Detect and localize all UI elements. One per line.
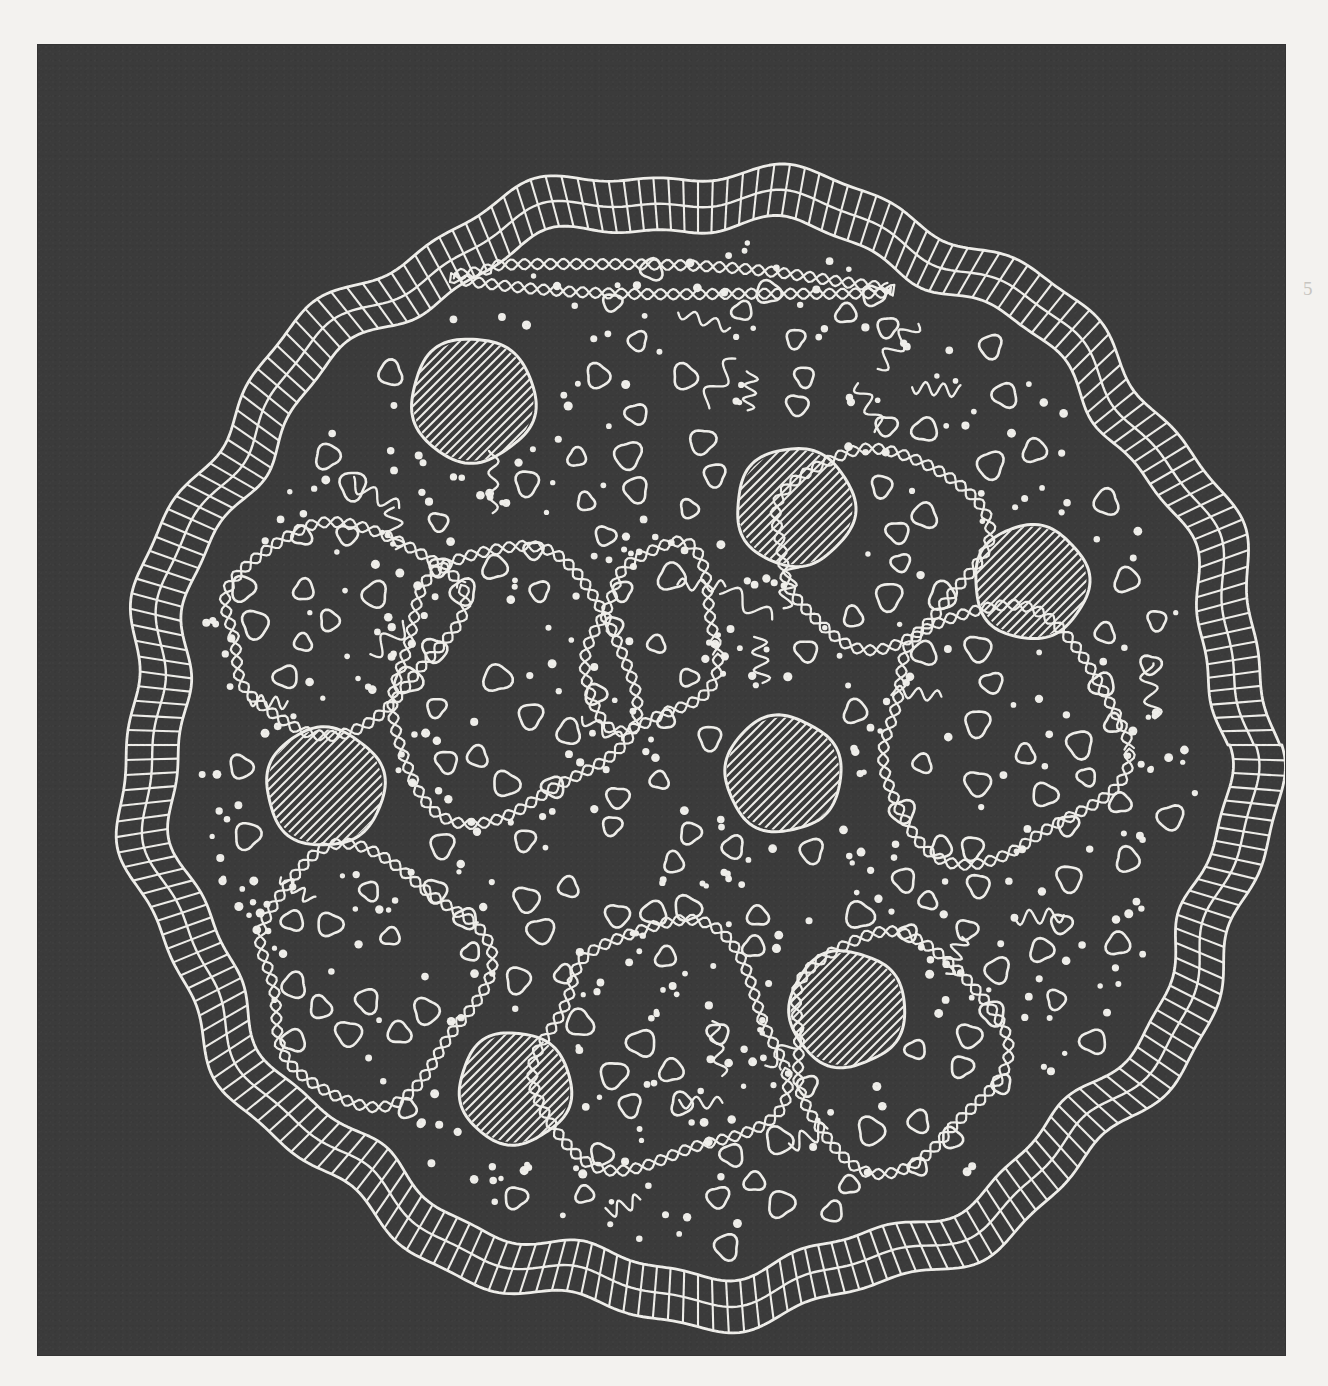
membrane-rung bbox=[432, 1212, 444, 1235]
cytoplasm-dot bbox=[565, 750, 573, 758]
membrane-rung bbox=[1215, 841, 1241, 846]
ribosome bbox=[742, 935, 764, 956]
membrane-rung bbox=[221, 486, 244, 498]
membrane-rung bbox=[624, 181, 627, 207]
cytoplasm-dot bbox=[651, 753, 660, 762]
membrane-rung bbox=[855, 191, 862, 216]
hatch-line bbox=[647, 413, 836, 602]
membrane-rung bbox=[941, 245, 953, 268]
membrane-rung bbox=[331, 292, 347, 312]
membrane-rung bbox=[1072, 352, 1090, 370]
membrane-rung bbox=[995, 1178, 1010, 1199]
membrane-rung bbox=[623, 1286, 626, 1312]
hatch-line bbox=[727, 916, 913, 1102]
membrane-rung bbox=[1080, 1089, 1099, 1106]
cytoplasm-dot bbox=[726, 921, 732, 927]
membrane-rung bbox=[954, 1217, 966, 1240]
membrane-rung bbox=[921, 1246, 932, 1270]
ribosome bbox=[690, 431, 716, 455]
membrane-rung bbox=[167, 939, 191, 948]
illustration-panel bbox=[38, 45, 1285, 1355]
membrane-rung bbox=[1093, 1082, 1113, 1099]
membrane-rung bbox=[150, 786, 176, 788]
mrna-squiggle bbox=[878, 324, 920, 371]
membrane-rung bbox=[1237, 701, 1263, 703]
membrane-rung bbox=[157, 600, 182, 607]
membrane-rung bbox=[986, 253, 1000, 275]
cytoplasm-dot bbox=[334, 549, 339, 554]
cytoplasm-dot bbox=[1115, 981, 1121, 987]
cytoplasm-dot bbox=[575, 381, 581, 387]
membrane-rung bbox=[1176, 943, 1200, 953]
membrane-rung bbox=[384, 1206, 398, 1228]
membrane-rung bbox=[1198, 879, 1223, 886]
membrane-rung bbox=[1208, 674, 1234, 677]
membrane-rung bbox=[1051, 1117, 1069, 1136]
membrane-rung bbox=[1043, 1128, 1060, 1147]
membrane-rung bbox=[1144, 1034, 1166, 1048]
membrane-rung bbox=[504, 196, 513, 221]
membrane-rung bbox=[382, 1159, 397, 1180]
membrane-rung bbox=[937, 1245, 948, 1268]
cytoplasm-dot bbox=[1021, 495, 1028, 502]
membrane-rung bbox=[1142, 459, 1164, 473]
ribosome bbox=[957, 1025, 982, 1049]
membrane-rung bbox=[972, 275, 986, 297]
cytoplasm-dot bbox=[342, 588, 348, 594]
cytoplasm-dot bbox=[888, 908, 894, 914]
ribosome bbox=[526, 919, 554, 944]
ribosome bbox=[513, 888, 539, 913]
cytoplasm-dot bbox=[1121, 830, 1127, 836]
membrane-rung bbox=[1200, 938, 1224, 947]
membrane-rung bbox=[254, 1070, 275, 1086]
cytoplasm-dot bbox=[1042, 763, 1049, 770]
cytoplasm-dot bbox=[764, 646, 770, 652]
membrane-rung bbox=[870, 1230, 879, 1255]
cytoplasm-dot bbox=[674, 992, 680, 998]
hatch-line bbox=[817, 916, 1003, 1102]
cytoplasm-dot bbox=[227, 683, 234, 690]
membrane-rung bbox=[1182, 902, 1207, 910]
cytoplasm-dot bbox=[615, 282, 621, 288]
cytoplasm-dot bbox=[783, 672, 792, 681]
membrane-rung bbox=[792, 1253, 797, 1279]
membrane-rung bbox=[609, 181, 613, 207]
ribosome bbox=[1047, 990, 1065, 1010]
ribosome bbox=[614, 442, 642, 470]
hatch-line bbox=[780, 681, 966, 867]
membrane-rung bbox=[726, 1281, 727, 1307]
cytoplasm-dot bbox=[311, 485, 317, 491]
hatch-line bbox=[311, 301, 509, 499]
membrane-rung bbox=[552, 201, 559, 226]
ribosome bbox=[1056, 867, 1081, 893]
ribosome bbox=[731, 301, 751, 320]
membrane-rung bbox=[712, 1279, 713, 1305]
margin-pencil-mark: 5 bbox=[1303, 278, 1313, 300]
membrane-rung bbox=[906, 255, 917, 279]
hatch-line bbox=[347, 301, 545, 499]
hatch-line bbox=[177, 693, 366, 882]
membrane-rung bbox=[1170, 985, 1193, 997]
hatch-line bbox=[772, 916, 958, 1102]
hatch-line bbox=[602, 413, 791, 602]
cytoplasm-dot bbox=[740, 1046, 747, 1053]
cytoplasm-dot bbox=[531, 273, 536, 278]
membrane-rung bbox=[136, 579, 161, 586]
membrane-rung bbox=[176, 496, 199, 507]
membrane-rung bbox=[1026, 1150, 1042, 1170]
cytoplasm-dot bbox=[365, 1055, 372, 1062]
hatch-line bbox=[673, 916, 859, 1102]
cytoplasm-dot bbox=[697, 1088, 704, 1095]
membrane-rung bbox=[143, 565, 168, 573]
membrane-rung bbox=[609, 1281, 613, 1307]
membrane-rung bbox=[1150, 1074, 1171, 1089]
membrane-rung bbox=[742, 1306, 744, 1332]
ribosome bbox=[588, 363, 611, 388]
ribosome bbox=[943, 1127, 963, 1148]
hatch-line bbox=[880, 916, 1066, 1102]
membrane-rung bbox=[1052, 1159, 1069, 1179]
cytoplasm-dot bbox=[857, 770, 864, 777]
membrane-rung bbox=[1082, 382, 1101, 399]
ribosome bbox=[1016, 743, 1035, 763]
membrane-rung bbox=[363, 283, 378, 304]
